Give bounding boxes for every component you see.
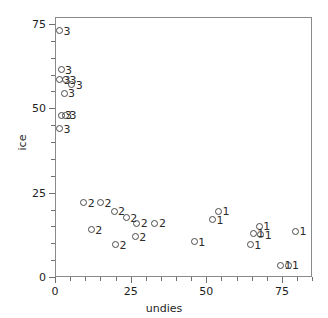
x-axis-tick-label: 50	[199, 286, 213, 297]
y-axis-tick-label: 75	[32, 19, 46, 30]
x-axis-minor-tick	[176, 277, 177, 281]
x-axis-minor-tick	[221, 277, 222, 281]
y-axis-minor-tick	[51, 142, 55, 143]
x-axis-major-tick	[206, 277, 207, 283]
y-axis-minor-tick	[51, 41, 55, 42]
y-axis-minor-tick	[51, 260, 55, 261]
y-axis-minor-tick	[51, 226, 55, 227]
x-axis-minor-tick	[297, 277, 298, 281]
x-axis-minor-tick	[146, 277, 147, 281]
plot-area-frame	[55, 17, 312, 277]
y-axis-minor-tick	[51, 125, 55, 126]
x-axis-minor-tick	[70, 277, 71, 281]
y-axis-minor-tick	[51, 75, 55, 76]
x-axis-minor-tick	[267, 277, 268, 281]
x-axis-title: undies	[0, 302, 328, 315]
y-axis-major-tick	[49, 193, 55, 194]
x-axis-tick-label: 25	[124, 286, 138, 297]
x-axis-minor-tick	[100, 277, 101, 281]
y-axis-minor-tick	[51, 91, 55, 92]
y-axis-tick-label: 50	[32, 103, 46, 114]
x-axis-minor-tick	[116, 277, 117, 281]
y-axis-minor-tick	[51, 176, 55, 177]
y-axis-minor-tick	[51, 58, 55, 59]
y-axis-title: ice	[16, 113, 29, 173]
x-axis-minor-tick	[237, 277, 238, 281]
x-axis-minor-tick	[312, 277, 313, 281]
x-axis-minor-tick	[252, 277, 253, 281]
y-axis-tick-label: 0	[39, 272, 46, 283]
y-axis-minor-tick	[51, 210, 55, 211]
x-axis-major-tick	[131, 277, 132, 283]
y-axis-tick-label: 25	[32, 188, 46, 199]
x-axis-minor-tick	[85, 277, 86, 281]
x-axis-minor-tick	[161, 277, 162, 281]
scatter-plot-figure: 3333333332222222221111111111 02550750255…	[0, 0, 328, 318]
y-axis-major-tick	[49, 24, 55, 25]
x-axis-major-tick	[55, 277, 56, 283]
x-axis-minor-tick	[191, 277, 192, 281]
x-axis-major-tick	[282, 277, 283, 283]
y-axis-major-tick	[49, 108, 55, 109]
x-axis-tick-label: 75	[275, 286, 289, 297]
y-axis-minor-tick	[51, 243, 55, 244]
y-axis-minor-tick	[51, 159, 55, 160]
x-axis-tick-label: 0	[52, 286, 59, 297]
